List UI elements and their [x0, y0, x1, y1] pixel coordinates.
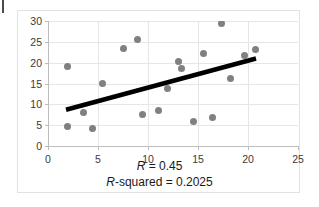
- x-axis-tick: [298, 147, 299, 150]
- y-axis-tick: [45, 42, 48, 43]
- x-axis-tick: [198, 147, 199, 150]
- y-axis-tick: [45, 21, 48, 22]
- y-axis-tick: [45, 104, 48, 105]
- figure-container: 0510152025300510152025 R = 0.45 R-square…: [17, 10, 300, 193]
- y-axis-tick-label: 10: [18, 99, 42, 110]
- y-axis-tick: [45, 84, 48, 85]
- r-symbol: R: [137, 159, 146, 173]
- y-axis-tick-label: 20: [18, 57, 42, 68]
- y-axis-tick-label: 0: [18, 141, 42, 152]
- x-axis-tick: [48, 147, 49, 150]
- caption-rsquared-line: R-squared = 0.2025: [18, 174, 301, 190]
- x-axis-tick: [98, 147, 99, 150]
- y-axis-tick-label: 30: [18, 16, 42, 27]
- chart-caption: R = 0.45 R-squared = 0.2025: [18, 158, 301, 190]
- trend-line: [66, 59, 256, 110]
- rsquared-value: -squared = 0.2025: [115, 175, 213, 189]
- y-axis-tick-label: 25: [18, 37, 42, 48]
- rsquared-symbol: R: [106, 175, 115, 189]
- page-edge-mark: [2, 0, 4, 13]
- y-axis-tick: [45, 63, 48, 64]
- y-axis-tick-label: 15: [18, 78, 42, 89]
- caption-r-line: R = 0.45: [18, 158, 301, 174]
- x-axis-tick: [148, 147, 149, 150]
- y-axis-tick: [45, 125, 48, 126]
- x-axis-tick: [248, 147, 249, 150]
- x-axis-line: [48, 146, 299, 147]
- y-axis-line: [48, 21, 49, 146]
- y-axis-tick-label: 5: [18, 120, 42, 131]
- r-value: = 0.45: [149, 159, 183, 173]
